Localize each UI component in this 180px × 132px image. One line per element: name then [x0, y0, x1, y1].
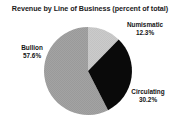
pie-label-numismatic-percent: 12.3%	[113, 29, 177, 37]
pie-label-circulating-percent: 30.2%	[117, 96, 179, 104]
pie-label-bullion-percent: 57.6%	[2, 52, 62, 60]
pie-chart-figure: Revenue by Line of Business (percent of …	[0, 0, 180, 132]
pie-label-numismatic-name: Numismatic	[113, 21, 177, 29]
pie-chart-graphic	[0, 0, 180, 132]
pie-label-bullion: Bullion 57.6%	[2, 44, 62, 61]
pie-label-circulating: Circulating 30.2%	[117, 88, 179, 105]
pie-label-circulating-name: Circulating	[117, 88, 179, 96]
pie-label-numismatic: Numismatic 12.3%	[113, 21, 177, 38]
pie-label-bullion-name: Bullion	[2, 44, 62, 52]
